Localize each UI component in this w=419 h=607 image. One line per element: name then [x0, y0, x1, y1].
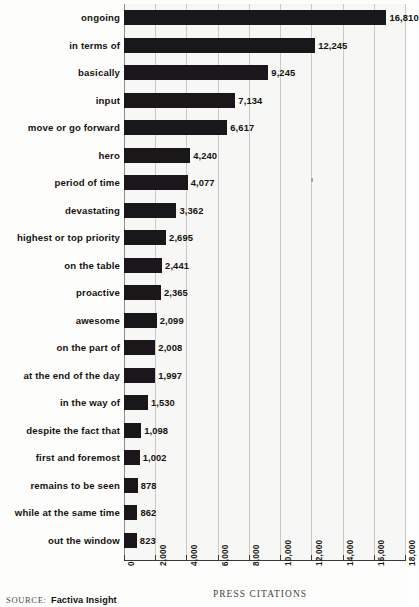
- category-label: in terms of: [69, 32, 120, 60]
- bar-value-label: 878: [141, 472, 157, 500]
- bar-value-label: 1,098: [144, 417, 168, 445]
- x-tick-label: 14,000: [346, 540, 355, 566]
- bar-wrap: 9,245: [124, 59, 409, 87]
- bar-wrap: 2,008: [124, 334, 409, 362]
- bar-value-label: 1,002: [143, 444, 167, 472]
- x-tick: [280, 555, 281, 561]
- x-tick-label: 12,000: [315, 540, 324, 566]
- x-tick-label: 8,000: [252, 545, 261, 567]
- bar-wrap: 4,077: [124, 169, 409, 197]
- bar: [124, 38, 315, 53]
- x-tick-label: 4,000: [190, 545, 199, 567]
- bar-value-label: 862: [140, 499, 156, 527]
- category-label: highest or top priority: [17, 224, 120, 252]
- bar-value-label: 16,810: [389, 4, 418, 32]
- bar: [124, 285, 161, 300]
- x-tick-label: 0: [127, 561, 136, 566]
- bar-wrap: 12,245: [124, 32, 409, 60]
- category-label: ongoing: [81, 4, 120, 32]
- x-tick: [343, 555, 344, 561]
- bar-value-label: 2,695: [169, 224, 193, 252]
- bar-row: highest or top priority2,695: [0, 224, 409, 252]
- bar: [124, 148, 190, 163]
- category-label: on the part of: [57, 334, 120, 362]
- bar-wrap: 862: [124, 499, 409, 527]
- source-label: SOURCE:: [6, 595, 47, 605]
- bar: [124, 230, 166, 245]
- bar-rows: ongoing16,810in terms of12,245basically9…: [0, 4, 409, 554]
- bar-wrap: 4,240: [124, 142, 409, 170]
- bar-value-label: 823: [140, 527, 156, 555]
- bar-row: on the part of2,008: [0, 334, 409, 362]
- source-name: Factiva Insight: [51, 595, 117, 605]
- bar-wrap: 2,441: [124, 252, 409, 280]
- bar-row: first and foremost1,002: [0, 444, 409, 472]
- bar-row: ongoing16,810: [0, 4, 409, 32]
- bar: [124, 175, 188, 190]
- category-label: period of time: [54, 169, 120, 197]
- bar-wrap: 16,810: [124, 4, 409, 32]
- scan-artifact-speck: [311, 178, 313, 182]
- bar-row: on the table2,441: [0, 252, 409, 280]
- category-label: on the table: [64, 252, 120, 280]
- bar: [124, 423, 141, 438]
- category-label: basically: [78, 59, 120, 87]
- bar: [124, 533, 137, 548]
- x-tick: [374, 555, 375, 561]
- bar-value-label: 2,008: [158, 334, 182, 362]
- x-tick-label: 18,000: [408, 540, 417, 566]
- category-label: input: [96, 87, 120, 115]
- bar-wrap: 1,098: [124, 417, 409, 445]
- bar-value-label: 4,240: [193, 142, 217, 170]
- category-label: move or go forward: [28, 114, 120, 142]
- category-label: while at the same time: [15, 499, 120, 527]
- bar: [124, 340, 155, 355]
- bar-wrap: 2,365: [124, 279, 409, 307]
- bar-wrap: 1,002: [124, 444, 409, 472]
- bar-value-label: 1,997: [158, 362, 182, 390]
- bar-wrap: 1,530: [124, 389, 409, 417]
- bar-value-label: 6,617: [230, 114, 254, 142]
- x-tick: [186, 555, 187, 561]
- bar: [124, 395, 148, 410]
- bar-wrap: 878: [124, 472, 409, 500]
- x-tick-label: 10,000: [284, 540, 293, 566]
- bar-value-label: 12,245: [318, 32, 347, 60]
- bar-row: in terms of12,245: [0, 32, 409, 60]
- bar-row: proactive2,365: [0, 279, 409, 307]
- bar-row: awesome2,099: [0, 307, 409, 335]
- bar-wrap: 3,362: [124, 197, 409, 225]
- category-label: out the window: [48, 527, 120, 555]
- bar-row: while at the same time862: [0, 499, 409, 527]
- bar-wrap: 2,099: [124, 307, 409, 335]
- source-line: SOURCE: Factiva Insight: [6, 589, 117, 607]
- bar-row: remains to be seen878: [0, 472, 409, 500]
- bar: [124, 93, 235, 108]
- category-label: at the end of the day: [24, 362, 120, 390]
- bar-value-label: 1,530: [151, 389, 175, 417]
- bar-row: move or go forward6,617: [0, 114, 409, 142]
- x-axis-title: PRESS CITATIONS: [190, 589, 330, 599]
- bar: [124, 203, 176, 218]
- bar-value-label: 2,441: [165, 252, 189, 280]
- bar: [124, 65, 268, 80]
- bar-row: input7,134: [0, 87, 409, 115]
- bar-row: at the end of the day1,997: [0, 362, 409, 390]
- bar: [124, 450, 140, 465]
- category-label: hero: [99, 142, 120, 170]
- x-tick-label: 16,000: [377, 540, 386, 566]
- bar-row: devastating3,362: [0, 197, 409, 225]
- bar-wrap: 2,695: [124, 224, 409, 252]
- x-tick: [311, 555, 312, 561]
- bar: [124, 120, 227, 135]
- bar-wrap: 7,134: [124, 87, 409, 115]
- category-label: proactive: [76, 279, 120, 307]
- x-tick: [218, 555, 219, 561]
- bar: [124, 10, 386, 25]
- bar-row: despite the fact that1,098: [0, 417, 409, 445]
- category-label: awesome: [76, 307, 120, 335]
- category-label: remains to be seen: [30, 472, 120, 500]
- bar: [124, 368, 155, 383]
- bar-value-label: 9,245: [271, 59, 295, 87]
